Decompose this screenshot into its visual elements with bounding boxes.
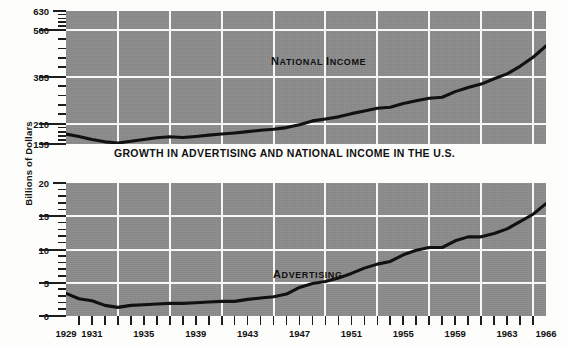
x-axis-label: 1939 [185,328,206,339]
annotation-national-income: NATIONAL INCOME [271,55,366,67]
x-axis-label: 1947 [289,328,310,339]
y-axis-minor-tick [58,104,66,106]
x-axis-tick [364,316,366,325]
y-axis-tick [53,29,66,31]
x-axis-label: 1931 [81,328,102,339]
y-axis-leader [39,143,53,145]
y-axis-minor-tick [58,135,66,137]
x-axis-tick [273,316,275,325]
x-axis-tick [428,316,430,325]
y-axis-minor-tick [58,131,66,133]
y-axis-bottom: 05101520 [52,183,66,316]
y-axis-minor-tick [58,195,66,197]
x-axis-tick [221,316,223,325]
annotation-advertising: ADVERTISING [273,268,343,280]
x-axis-tick [104,316,106,325]
panel-advertising: 05101520 1929193119351939194319471951195… [66,183,546,316]
x-axis-tick [325,316,327,325]
x-axis-tick [454,316,456,325]
y-axis-tick [53,76,66,78]
y-axis-minor-tick [58,38,66,40]
y-axis-minor-tick [58,202,66,204]
y-axis-minor-tick [58,235,66,237]
y-axis-minor-tick [58,242,66,244]
x-axis-tick [117,316,119,325]
y-axis-minor-tick [58,209,66,211]
y-axis-label: 630 [33,6,49,17]
x-axis-tick [91,316,93,325]
y-axis-minor-tick [58,255,66,257]
y-axis-minor-tick [58,268,66,270]
x-axis-label: 1955 [393,328,414,339]
x-axis-tick [493,316,495,325]
x-axis-label: 1963 [497,328,518,339]
x-axis-tick [338,316,340,325]
x-axis-tick [389,316,391,325]
y-axis-minor-tick [58,25,66,27]
x-axis-label: 1943 [237,328,258,339]
y-axis-leader [39,249,53,251]
x-axis-tick [312,316,314,325]
y-axis-minor-tick [58,127,66,129]
x-axis-tick [247,316,249,325]
y-axis-minor-tick [58,139,66,141]
y-axis-leader [39,123,53,125]
y-axis-minor-tick [58,189,66,191]
x-axis-tick [182,316,184,325]
y-axis-leader [39,215,53,217]
y-axis-tick [53,143,66,145]
y-axis-minor-tick [58,222,66,224]
y-axis-tick [53,249,66,251]
panel-national-income: 135210385560630 NATIONAL INCOME [66,11,546,144]
x-axis-label: 1929 [55,328,76,339]
y-axis-minor-tick [58,14,66,16]
y-axis-tick [53,215,66,217]
x-axis-tick [169,316,171,325]
y-axis-leader [39,29,53,31]
x-axis-tick [299,316,301,325]
x-axis-tick [415,316,417,325]
y-axis-minor-tick [58,85,66,87]
series-line-national-income [66,11,546,144]
series-line-advertising [66,183,546,316]
x-axis: 1929193119351939194319471951195519591963… [66,316,546,346]
x-axis-tick [441,316,443,325]
y-axis-tick [53,123,66,125]
chart-figure: Billions of Dollars 135210385560630 NATI… [0,0,569,346]
y-axis-minor-tick [58,302,66,304]
y-axis-title: Billions of Dollars [23,84,34,244]
x-axis-tick [377,316,379,325]
y-axis-tick [53,315,66,317]
y-axis-leader [39,315,53,317]
y-axis-minor-tick [58,57,66,59]
chart-title: GROWTH IN ADVERTISING AND NATIONAL INCOM… [0,147,569,159]
y-axis-minor-tick [58,262,66,264]
x-axis-tick [532,316,534,325]
y-axis-minor-tick [58,308,66,310]
y-axis-minor-tick [58,275,66,277]
x-axis-label: 1951 [341,328,362,339]
x-axis-tick [208,316,210,325]
y-axis-tick [53,10,66,12]
y-axis-minor-tick [58,288,66,290]
x-axis-tick [286,316,288,325]
y-axis-minor-tick [58,295,66,297]
x-axis-tick [519,316,521,325]
x-axis-tick [195,316,197,325]
x-axis-tick [402,316,404,325]
x-axis-tick [156,316,158,325]
x-axis-tick [78,316,80,325]
y-axis-minor-tick [58,21,66,23]
x-axis-tick [234,316,236,325]
x-axis-label: 1959 [445,328,466,339]
y-axis-minor-tick [58,113,66,115]
x-axis-tick [143,316,145,325]
y-axis-tick [53,282,66,284]
x-axis-tick [130,316,132,325]
y-axis-leader [39,282,53,284]
x-axis-label: 1966 [535,328,556,339]
y-axis-leader [39,76,53,78]
y-axis-top: 135210385560630 [52,11,66,144]
y-axis-minor-tick [58,48,66,50]
y-axis-label: 20 [38,178,49,189]
